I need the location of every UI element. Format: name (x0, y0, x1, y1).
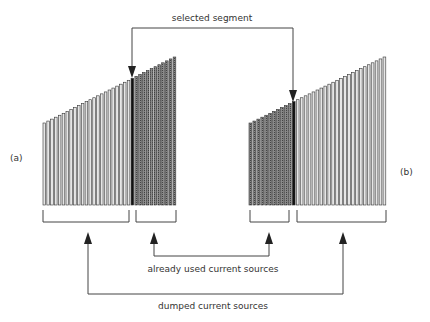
arrow-up-icon (339, 232, 347, 244)
dark-current-source-bar (162, 63, 165, 205)
dumped-arrows (84, 232, 347, 294)
light-current-source-bar (363, 67, 366, 205)
light-current-source-bar (120, 84, 123, 205)
light-current-source-bar (100, 94, 103, 205)
dark-current-source-bar (273, 111, 276, 205)
light-current-source-bar (116, 86, 119, 205)
dumped-label: dumped current sources (158, 301, 268, 311)
selected-current-source-bar (131, 78, 134, 205)
light-current-source-bar (379, 59, 382, 205)
light-current-source-bar (316, 90, 319, 205)
light-current-source-bar (112, 88, 115, 205)
light-current-source-bar (300, 98, 303, 205)
light-current-source-bar (97, 96, 100, 205)
light-current-source-bar (51, 119, 54, 205)
dark-current-source-bar (154, 67, 157, 205)
light-current-source-bar (336, 80, 339, 205)
light-current-source-bar (108, 90, 111, 205)
arrow-down-icon (289, 90, 297, 102)
light-current-source-bar (43, 123, 46, 205)
dark-current-source-bar (284, 106, 287, 205)
panel-b-label: (b) (400, 167, 413, 177)
light-current-source-bar (77, 106, 80, 205)
panel-a-bars (43, 57, 176, 205)
light-current-source-bar (359, 69, 362, 205)
light-current-source-bar (348, 74, 351, 205)
light-current-source-bar (58, 115, 61, 205)
light-current-source-bar (355, 71, 358, 205)
dark-current-source-bar (253, 121, 256, 205)
dark-current-source-bar (139, 74, 142, 205)
light-current-source-bar (344, 76, 347, 205)
dark-current-source-bar (169, 59, 172, 205)
light-current-source-bar (70, 109, 73, 205)
dark-current-source-bar (166, 61, 169, 205)
dark-current-source-bar (249, 123, 252, 205)
light-current-source-bar (308, 94, 311, 205)
bracket-b-used (250, 210, 289, 222)
light-current-source-bar (340, 78, 343, 205)
light-current-source-bar (304, 96, 307, 205)
light-current-source-bar (312, 92, 315, 205)
light-current-source-bar (332, 82, 335, 205)
light-current-source-bar (123, 82, 126, 205)
dark-current-source-bar (277, 109, 280, 205)
dark-current-source-bar (158, 65, 161, 205)
light-current-source-bar (296, 100, 299, 205)
dark-current-source-bar (173, 57, 176, 205)
selected-segment-label: selected segment (172, 13, 253, 23)
light-current-source-bar (85, 102, 88, 205)
current-source-diagram: selected segment already used current so… (0, 0, 430, 322)
dark-current-source-bar (265, 115, 268, 205)
light-current-source-bar (375, 61, 378, 205)
light-current-source-bar (66, 111, 69, 205)
brackets (43, 210, 386, 222)
light-current-source-bar (89, 100, 92, 205)
dark-current-source-bar (143, 73, 146, 205)
arrow-up-icon (150, 232, 158, 244)
arrow-up-icon (265, 232, 273, 244)
light-current-source-bar (93, 98, 96, 205)
dark-current-source-bar (146, 71, 149, 205)
dark-current-source-bar (269, 113, 272, 205)
dark-current-source-bar (257, 119, 260, 205)
panel-a-label: (a) (10, 153, 23, 163)
dark-current-source-bar (281, 107, 284, 205)
selected-segment-arrow (128, 28, 297, 102)
dark-current-source-bar (261, 117, 264, 205)
light-current-source-bar (104, 92, 107, 205)
light-current-source-bar (328, 84, 331, 205)
light-current-source-bar (62, 113, 65, 205)
light-current-source-bar (74, 107, 77, 205)
light-current-source-bar (352, 73, 355, 205)
bracket-a-used (136, 210, 176, 222)
light-current-source-bar (383, 57, 386, 205)
bracket-a-dumped (43, 210, 129, 222)
dark-current-source-bar (288, 104, 291, 205)
light-current-source-bar (324, 86, 327, 205)
light-current-source-bar (81, 104, 84, 205)
bracket-b-dumped (297, 210, 386, 222)
selected-current-source-bar (292, 102, 295, 205)
light-current-source-bar (371, 63, 374, 205)
already-used-label: already used current sources (148, 264, 279, 274)
already-used-arrows (150, 232, 273, 256)
light-current-source-bar (54, 117, 57, 205)
light-current-source-bar (320, 88, 323, 205)
light-current-source-bar (47, 121, 50, 205)
arrow-up-icon (84, 232, 92, 244)
dark-current-source-bar (150, 69, 153, 205)
light-current-source-bar (367, 65, 370, 205)
light-current-source-bar (127, 80, 130, 205)
dark-current-source-bar (135, 76, 138, 205)
panel-b-bars (249, 57, 386, 205)
